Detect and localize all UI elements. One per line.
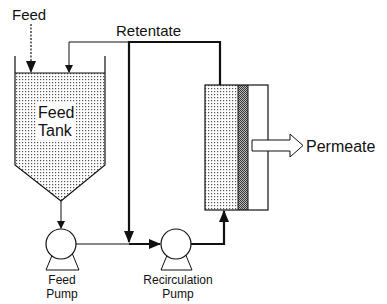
permeate-label: Permeate (306, 138, 375, 155)
feed-pump: Feed Pump (46, 229, 79, 301)
module-membrane (238, 85, 248, 210)
feed-pump-label-line2: Pump (46, 287, 78, 301)
module-feed-channel (205, 85, 238, 210)
filtration-diagram: Feed Feed Tank Retentate Feed Pump Recir… (0, 0, 387, 304)
recirc-pump-label-line2: Pump (162, 287, 194, 301)
recirc-pump-icon (161, 229, 191, 259)
feed-inlet-label: Feed (12, 6, 46, 23)
retentate-return-line (69, 42, 129, 72)
feed-tank: Feed Tank (15, 56, 105, 201)
retentate-label: Retentate (116, 22, 181, 39)
recirc-pump-label-line1: Recirculation (143, 273, 212, 287)
feed-pump-label-line1: Feed (48, 273, 75, 287)
recirc-to-module-line (191, 211, 224, 244)
tank-label-line1: Feed (38, 104, 74, 121)
recirculation-pump: Recirculation Pump (143, 229, 212, 301)
tank-label-line2: Tank (38, 122, 73, 139)
feed-pump-icon (46, 229, 76, 259)
